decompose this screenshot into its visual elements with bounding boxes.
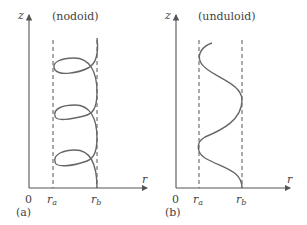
figure: (nodoid) z r 0 ra rb (a) (unduloid) z r … [0, 0, 307, 225]
title-b: (unduloid) [198, 10, 256, 23]
r-label-b: r [287, 173, 293, 186]
panel-a-nodoid: (nodoid) z r 0 ra rb (a) [16, 9, 148, 219]
nodoid-curve [54, 38, 98, 188]
unduloid-curve [198, 43, 242, 188]
rb-label-b: rb [236, 193, 246, 207]
ra-label-a: ra [47, 193, 57, 207]
panel-label-a: (a) [16, 206, 31, 219]
r-label-a: r [142, 173, 148, 186]
title-a: (nodoid) [52, 10, 99, 23]
z-label-a: z [17, 9, 24, 22]
origin-b: 0 [172, 193, 179, 206]
rb-label-a: rb [91, 193, 101, 207]
panel-label-b: (b) [165, 206, 181, 219]
z-label-b: z [164, 9, 171, 22]
origin-a: 0 [25, 193, 32, 206]
panel-b-unduloid: (unduloid) z r 0 ra rb (b) [164, 9, 293, 219]
ra-label-b: ra [193, 193, 203, 207]
